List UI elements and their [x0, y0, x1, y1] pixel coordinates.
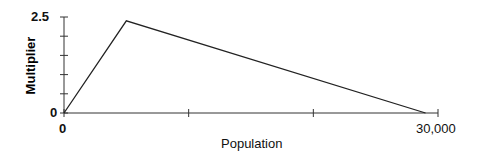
x-tick-label-right: 30,000 — [416, 121, 456, 136]
series-line — [64, 21, 426, 113]
x-axis-label: Population — [221, 136, 282, 151]
y-tick-label-top: 2.5 — [31, 9, 49, 24]
x-tick-label-left: 0 — [59, 121, 66, 136]
y-axis-label: Multiplier — [23, 31, 38, 101]
axes — [60, 17, 438, 117]
y-tick-label-bottom: 0 — [50, 105, 57, 120]
